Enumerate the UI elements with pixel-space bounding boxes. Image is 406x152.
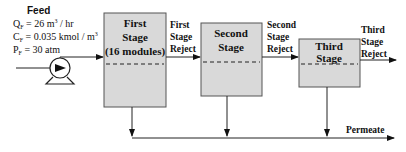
svg-text:Reject: Reject xyxy=(361,49,388,59)
svg-text:Stage: Stage xyxy=(361,37,383,47)
svg-text:Second: Second xyxy=(214,27,248,39)
svg-text:Stage: Stage xyxy=(267,32,289,42)
first-stage-reject-label: First Stage Reject xyxy=(170,20,197,54)
permeate-label: Permeate xyxy=(346,125,385,135)
pump-to-first-stage-line xyxy=(60,57,103,58)
third-stage-box: Third Stage xyxy=(299,39,360,87)
feed-title: Feed xyxy=(27,5,50,16)
svg-text:(16 modules): (16 modules) xyxy=(105,45,166,58)
svg-text:First: First xyxy=(124,17,147,29)
svg-text:Reject: Reject xyxy=(267,44,294,54)
feed-conditions: Feed QF = 26 m3 / hr CF = 0.035 kmol / m… xyxy=(13,5,98,56)
svg-text:Stage: Stage xyxy=(218,41,244,53)
svg-text:Third: Third xyxy=(361,25,385,35)
second-stage-box: Second Stage xyxy=(201,23,262,96)
svg-text:Reject: Reject xyxy=(170,44,197,54)
svg-text:Second: Second xyxy=(267,20,297,30)
svg-text:Stage: Stage xyxy=(170,32,192,42)
third-stage-reject-label: Third Stage Reject xyxy=(361,25,388,59)
svg-text:First: First xyxy=(170,20,190,30)
second-stage-reject-label: Second Stage Reject xyxy=(267,20,297,54)
multistage-membrane-diagram: Feed QF = 26 m3 / hr CF = 0.035 kmol / m… xyxy=(0,0,406,152)
svg-text:Stage: Stage xyxy=(316,52,342,64)
first-stage-box: First Stage (16 modules) xyxy=(104,13,166,107)
pump-icon xyxy=(46,58,74,84)
feed-flow-rate: QF = 26 m3 / hr xyxy=(13,18,74,30)
svg-text:Third: Third xyxy=(315,40,343,52)
svg-text:Stage: Stage xyxy=(122,31,148,43)
feed-concentration: CF = 0.035 kmol / m3 xyxy=(13,31,98,43)
feed-pressure: PF = 30 atm xyxy=(13,44,60,56)
